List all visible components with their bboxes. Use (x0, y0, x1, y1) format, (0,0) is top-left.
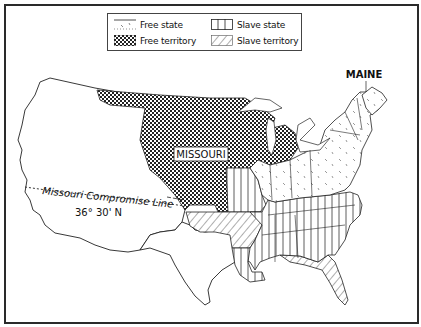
legend-item-free-state: Free state (114, 19, 183, 30)
legend-label-slave-state: Slave state (237, 20, 285, 30)
slave-territory-swatch-icon (211, 35, 233, 46)
legend-item-slave-territory: Slave territory (211, 35, 298, 46)
legend-label-free-territory: Free territory (140, 36, 196, 46)
legend-item-slave-state: Slave state (211, 19, 285, 30)
maine-label: MAINE (346, 69, 383, 80)
slave-state-swatch-icon (211, 19, 233, 30)
latitude-label: 36° 30' N (75, 207, 122, 218)
legend-label-free-state: Free state (140, 20, 183, 30)
map-legend: Free state Slave state Free territory Sl… (107, 13, 302, 51)
legend-item-free-territory: Free territory (114, 35, 196, 46)
free-state-swatch-icon (114, 19, 136, 30)
missouri-label: MISSOURI (176, 149, 225, 160)
slave-territory-florida (280, 255, 348, 305)
legend-label-slave-territory: Slave territory (237, 36, 298, 46)
free-territory-swatch-icon (114, 35, 136, 46)
